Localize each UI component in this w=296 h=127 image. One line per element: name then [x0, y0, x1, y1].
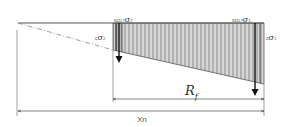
subscript: 1: [274, 36, 276, 41]
label-c-sigma2: cσ2: [95, 27, 105, 43]
xn-dimension-line: [18, 110, 264, 112]
rf-main: R: [185, 83, 195, 98]
stress-distribution-diagram: [0, 0, 296, 127]
label-xn: Xn: [137, 116, 147, 124]
xn-text: Xn: [137, 115, 147, 124]
stress-block: [113, 23, 264, 90]
label-scu-sigma2: scu rσ2: [114, 9, 133, 25]
subscript: 2: [103, 36, 105, 41]
label-prefix: scu r: [114, 17, 125, 23]
subscript: 1: [248, 18, 250, 23]
label-rf: Rf: [185, 84, 198, 101]
label-prefix: scu r: [232, 17, 243, 23]
label-c-sigma1: cσ1: [266, 27, 276, 43]
label-scu-sigma1: scu rσ1: [232, 9, 251, 25]
subscript: 2: [130, 18, 132, 23]
rf-subscript: f: [195, 92, 198, 101]
